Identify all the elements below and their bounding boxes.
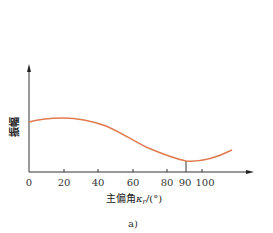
x-axis-arrow-icon (246, 170, 254, 174)
x-tick-label: 0 (26, 177, 32, 188)
chart-canvas: 0 20 40 60 80 90 100 振幅 主偏角κr/(°) a) (0, 0, 273, 233)
y-axis-label: 振幅 (8, 117, 20, 137)
figure-caption: a) (128, 218, 138, 229)
x-axis-label: 主偏角κr/(°) (106, 192, 162, 206)
x-tick-label: 90 (179, 177, 192, 188)
x-tick-label: 80 (161, 177, 174, 188)
x-axis-label-unit: /(°) (146, 193, 162, 204)
y-axis-arrow-icon (27, 64, 31, 72)
x-axis-label-main: 主偏角 (106, 192, 136, 204)
x-tick-label: 20 (58, 177, 71, 188)
x-tick-label: 100 (195, 177, 214, 188)
x-tick-label: 40 (92, 177, 105, 188)
amplitude-curve (29, 118, 232, 161)
x-tick-label: 60 (127, 177, 140, 188)
